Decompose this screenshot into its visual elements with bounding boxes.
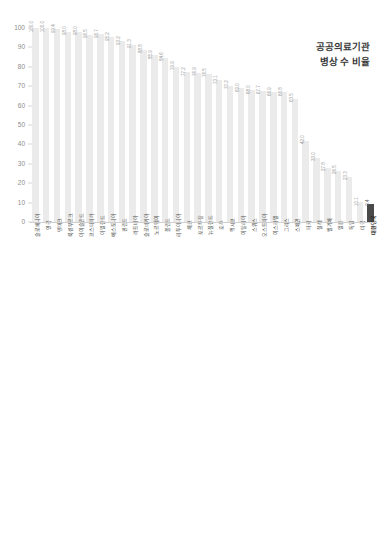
bar-value-label: 76.9 xyxy=(193,67,198,76)
bar-value-label: 66.9 xyxy=(269,87,274,96)
y-tick-label: 0 xyxy=(21,219,25,226)
bar-slot: 98.0 xyxy=(62,28,73,222)
bar: 88.8 xyxy=(140,50,146,222)
bar: 67.7 xyxy=(259,91,265,222)
y-tick-mark xyxy=(28,66,32,67)
bar-value-label: 76.5 xyxy=(204,68,209,77)
x-label-slot: 슬로바키아 xyxy=(138,224,149,268)
x-label-slot: 독일 xyxy=(344,224,355,268)
bar-value-label: 98.0 xyxy=(74,26,79,35)
chart-public-hospital-bed-ratio: 공공의료기관 병상 수 비율 0102030405060708090100 10… xyxy=(0,0,384,270)
x-label-slot: 스위스 xyxy=(246,224,257,268)
bar: 68.0 xyxy=(248,90,254,222)
bar-value-label: 66.8 xyxy=(279,87,284,96)
bar-value-label: 91.3 xyxy=(128,39,133,48)
x-axis-label: 이탈리아 xyxy=(241,215,246,235)
bar-group-top: 100.0100.099.498.098.096.596.795.293.291… xyxy=(30,28,376,222)
bar: 96.7 xyxy=(97,34,103,222)
x-axis-label: 이스라엘 xyxy=(273,215,278,235)
bar: 33.0 xyxy=(313,158,319,222)
x-axis-label: 노르웨이 xyxy=(154,215,159,235)
x-label-slot: 뉴질랜드 xyxy=(203,224,214,268)
x-axis-label: 뉴질랜드 xyxy=(208,215,213,235)
bar: 95.2 xyxy=(108,37,114,222)
y-tick-label: 50 xyxy=(18,122,25,129)
x-label-slot: 이스라엘 xyxy=(268,224,279,268)
bar-value-label: 70.2 xyxy=(225,80,230,89)
x-label-slot: 그리스 xyxy=(279,224,290,268)
bar: 100.0 xyxy=(32,28,38,222)
bar-slot: 95.2 xyxy=(106,28,117,222)
x-axis-label: 핀란드 xyxy=(122,218,127,233)
x-label-slot: 오스트리아 xyxy=(257,224,268,268)
bar-slot: 76.5 xyxy=(203,28,214,222)
bar-value-label: 95.2 xyxy=(106,32,111,41)
bar-value-label: 88.8 xyxy=(139,44,144,53)
y-axis-top: 0102030405060708090100 xyxy=(0,28,28,222)
bar: 66.9 xyxy=(270,92,276,222)
x-label-slot: 덴마크 xyxy=(52,224,63,268)
bar: 42.0 xyxy=(302,141,308,222)
x-label-slot: 스페인 xyxy=(290,224,301,268)
x-label-slot: 아이슬란드 xyxy=(73,224,84,268)
bar-slot: 66.9 xyxy=(268,28,279,222)
x-axis-labels-top: 슬로베니아영국덴마크룩셈부르크아이슬란드코스타리카아일랜드에스토니아핀란드라트비… xyxy=(30,224,376,268)
bar-slot: 91.3 xyxy=(127,28,138,222)
x-label-slot: 멕시코 xyxy=(225,224,236,268)
x-axis-label: 리투아니아 xyxy=(176,213,181,238)
y-tick-mark xyxy=(28,86,32,87)
bar-value-label: 85.9 xyxy=(150,50,155,59)
bar-value-label: 9.4 xyxy=(366,200,371,206)
bar-value-label: 84.6 xyxy=(161,52,166,61)
bar-slot: 70.2 xyxy=(225,28,236,222)
x-label-slot: 미국 xyxy=(354,224,365,268)
bar: 76.9 xyxy=(194,73,200,222)
bar: 66.8 xyxy=(281,92,287,222)
bar-slot: 93.2 xyxy=(117,28,128,222)
x-label-slot: 이탈리아 xyxy=(235,224,246,268)
bar-value-label: 77.2 xyxy=(182,67,187,76)
x-label-slot: 일본 xyxy=(333,224,344,268)
bar-value-label: 98.0 xyxy=(63,26,68,35)
bar-slot: 33.0 xyxy=(311,28,322,222)
x-axis-label: 멕시코 xyxy=(230,218,235,233)
x-axis-label: 대한민국 xyxy=(371,215,376,235)
x-axis-label: 오스트리아 xyxy=(262,213,267,238)
bar-value-label: 69.0 xyxy=(236,83,241,92)
x-axis-label: 덴마크 xyxy=(57,218,62,233)
y-tick-label: 100 xyxy=(14,25,25,32)
x-label-slot: 벨기에 xyxy=(322,224,333,268)
bar-slot: 88.8 xyxy=(138,28,149,222)
bar-value-label: 27.8 xyxy=(323,163,328,172)
x-label-slot: 리투아니아 xyxy=(171,224,182,268)
bar: 84.6 xyxy=(162,58,168,222)
x-label-slot: 아일랜드 xyxy=(95,224,106,268)
bar-slot: 96.7 xyxy=(95,28,106,222)
bar: 26.5 xyxy=(335,171,341,222)
bar: 77.2 xyxy=(184,72,190,222)
bar-slot: 84.6 xyxy=(160,28,171,222)
bar-slot: 69.0 xyxy=(235,28,246,222)
bar-value-label: 10.1 xyxy=(355,197,360,206)
x-label-slot: 칠레 xyxy=(311,224,322,268)
y-tick-label: 20 xyxy=(18,180,25,187)
bar-slot: 26.5 xyxy=(333,28,344,222)
bar-slot: 99.4 xyxy=(52,28,63,222)
x-label-slot: 대한민국 xyxy=(365,224,376,268)
bar-value-label: 99.4 xyxy=(52,24,57,33)
x-axis-label: 스위스 xyxy=(252,218,257,233)
y-tick-label: 10 xyxy=(18,199,25,206)
y-tick-mark xyxy=(28,183,32,184)
x-label-slot: 폴란드 xyxy=(160,224,171,268)
x-axis-label: 룩셈부르크 xyxy=(68,213,73,238)
x-label-slot: 에스토니아 xyxy=(106,224,117,268)
chart-page: 공공의료기관 병상 수 비율 0102030405060708090100 10… xyxy=(0,0,384,537)
bar-slot: 67.7 xyxy=(257,28,268,222)
x-label-slot: 터키 xyxy=(300,224,311,268)
x-label-slot: 체코 xyxy=(181,224,192,268)
bar-value-label: 42.0 xyxy=(301,135,306,144)
x-axis-label: 에스토니아 xyxy=(111,213,116,238)
x-axis-label: 슬로베니아 xyxy=(35,213,40,238)
bar-value-label: 68.0 xyxy=(247,85,252,94)
bar-slot: 42.0 xyxy=(300,28,311,222)
